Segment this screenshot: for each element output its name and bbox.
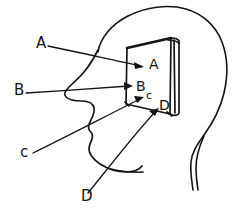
leader-A-arrowhead: [134, 62, 144, 69]
diagram-canvas: A B c D A B c D: [0, 0, 235, 213]
leader-line-A: [48, 46, 144, 69]
label-figure-B: B: [136, 78, 146, 94]
label-left-A: A: [36, 34, 47, 52]
figure-root: A B c D A B c D: [0, 0, 235, 213]
plate-thickness-edge-inner: [174, 40, 175, 113]
label-left-c: c: [20, 143, 28, 161]
leader-B-path: [26, 86, 129, 93]
leader-line-D: [88, 108, 159, 193]
leader-line-B: [26, 82, 133, 93]
label-figure-c: c: [146, 89, 152, 102]
plate-top-edge: [127, 38, 171, 48]
rectangular-plate-group: [125, 38, 179, 116]
leader-B-arrowhead: [124, 82, 133, 90]
face-profile-path: [65, 50, 142, 172]
face-profile-group: [65, 50, 143, 172]
label-bottom-D: D: [81, 187, 93, 205]
leader-D-path: [88, 111, 156, 193]
label-figure-D: D: [159, 97, 170, 113]
leader-c-path: [33, 99, 140, 153]
label-figure-A: A: [149, 56, 159, 72]
label-left-B: B: [14, 81, 24, 99]
